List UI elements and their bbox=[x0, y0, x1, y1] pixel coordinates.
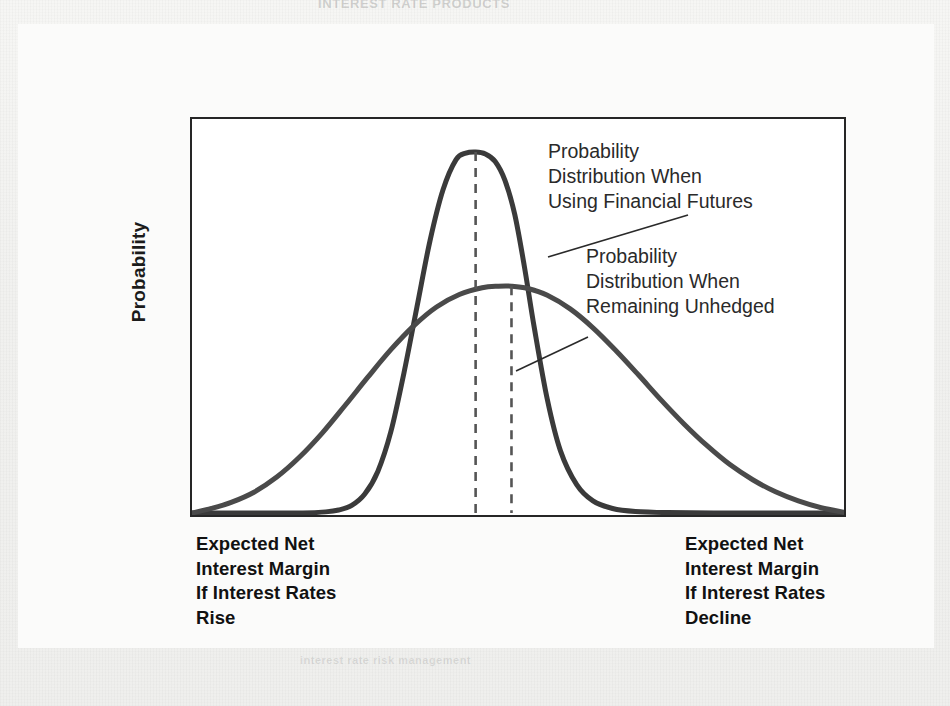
exhibit-page: INTEREST RATE PRODUCTS est Rate Ris inte… bbox=[0, 0, 950, 706]
x-axis-right-caption: Expected Net Interest Margin If Interest… bbox=[685, 532, 826, 630]
unhedged-annotation-label: Probability Distribution When Remaining … bbox=[586, 244, 775, 319]
x-axis-left-caption: Expected Net Interest Margin If Interest… bbox=[196, 532, 337, 630]
y-axis-label: Probability bbox=[128, 202, 150, 342]
hedged-annotation-label: Probability Distribution When Using Fina… bbox=[548, 139, 753, 214]
exhibit-card: Probability Probability Distribution Whe… bbox=[18, 24, 934, 648]
annotation-leader-line-1 bbox=[516, 337, 588, 371]
series-curve-1 bbox=[192, 286, 844, 513]
